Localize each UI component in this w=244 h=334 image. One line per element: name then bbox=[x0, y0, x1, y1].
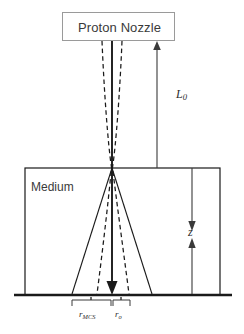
brace-ro bbox=[113, 297, 130, 306]
proton-nozzle-box: Proton Nozzle bbox=[62, 12, 175, 41]
proton-nozzle-diagram: Proton Nozzle Medium L0 z rMCS ro bbox=[0, 0, 244, 334]
beam-axis-arrowhead bbox=[107, 281, 118, 295]
depth-arrow-down-head bbox=[188, 221, 195, 231]
mcs-cone-right-edge bbox=[112, 168, 152, 294]
mcs-cone-left-edge bbox=[72, 168, 112, 294]
medium-box bbox=[25, 168, 220, 295]
diagram-canvas bbox=[0, 0, 244, 334]
proton-nozzle-label: Proton Nozzle bbox=[63, 13, 176, 42]
depth-arrow-up-head bbox=[188, 238, 195, 248]
brace-rmcs bbox=[72, 297, 111, 306]
drift-length-arrowhead bbox=[153, 41, 161, 50]
